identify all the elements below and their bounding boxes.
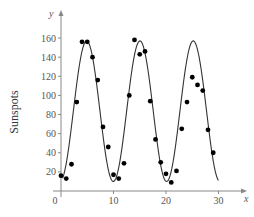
x-tick-label: 10 bbox=[109, 195, 119, 206]
data-point bbox=[74, 100, 79, 105]
data-point bbox=[59, 173, 64, 178]
y-tick-label: 60 bbox=[46, 128, 56, 139]
y-tick-label: 120 bbox=[41, 71, 56, 82]
data-point bbox=[190, 75, 195, 80]
data-point bbox=[85, 39, 90, 44]
y-tick-label: 160 bbox=[41, 33, 56, 44]
y-tick-label: 80 bbox=[46, 109, 56, 120]
y-tick-label: 40 bbox=[46, 147, 56, 158]
data-point bbox=[116, 176, 121, 181]
data-point bbox=[80, 39, 85, 44]
data-point bbox=[101, 125, 106, 130]
y-tick-label: 140 bbox=[41, 52, 56, 63]
data-point bbox=[195, 82, 200, 87]
data-point bbox=[200, 88, 205, 93]
y-axis-title: Sunspots bbox=[7, 90, 21, 134]
data-point bbox=[95, 78, 100, 83]
y-tick-label: 100 bbox=[41, 90, 56, 101]
x-ticks: 0102030 bbox=[53, 191, 224, 206]
y-ticks: 20406080100120140160 bbox=[41, 33, 61, 178]
data-point bbox=[137, 52, 142, 57]
data-points bbox=[59, 38, 216, 185]
x-tick-label: 30 bbox=[214, 195, 224, 206]
data-point bbox=[211, 150, 216, 155]
data-point bbox=[64, 176, 69, 181]
data-point bbox=[179, 126, 184, 131]
y-axis-arrow-icon bbox=[59, 10, 64, 16]
y-tick-label: 20 bbox=[46, 166, 56, 177]
data-point bbox=[174, 169, 179, 174]
data-point bbox=[69, 162, 74, 167]
axes: y x bbox=[48, 8, 249, 204]
data-point bbox=[158, 160, 163, 165]
data-point bbox=[111, 172, 116, 177]
data-point bbox=[106, 145, 111, 150]
y-axis-variable: y bbox=[48, 8, 54, 19]
x-tick-label: 0 bbox=[53, 195, 58, 206]
sunspot-chart: Sunspots y x 20406080100120140160 010203… bbox=[0, 0, 254, 217]
data-point bbox=[132, 38, 137, 43]
data-point bbox=[122, 161, 127, 166]
data-point bbox=[90, 55, 95, 60]
data-point bbox=[164, 171, 169, 176]
data-point bbox=[153, 137, 158, 142]
x-axis-variable: x bbox=[243, 193, 249, 204]
data-point bbox=[143, 49, 148, 54]
model-curve bbox=[63, 41, 219, 182]
data-point bbox=[169, 180, 174, 185]
data-point bbox=[185, 100, 190, 105]
data-point bbox=[206, 127, 211, 132]
x-tick-label: 20 bbox=[161, 195, 171, 206]
data-point bbox=[148, 99, 153, 104]
data-point bbox=[127, 93, 132, 98]
